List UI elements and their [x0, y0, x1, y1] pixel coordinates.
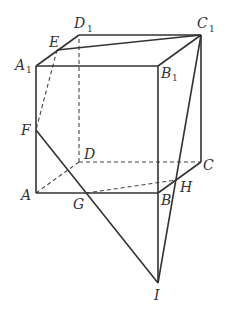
- label-A: A: [19, 187, 31, 203]
- label-E: E: [48, 34, 59, 50]
- label-I: I: [153, 287, 160, 303]
- label-B1-sub: 1: [172, 73, 178, 83]
- cube-diagram: D 1 C 1 E A 1 B 1 F D C A H G B I: [0, 0, 225, 313]
- edge-A-D: [36, 162, 79, 193]
- label-A1-sub: 1: [26, 65, 32, 75]
- label-B: B: [160, 192, 171, 208]
- label-F: F: [20, 122, 32, 138]
- label-C1-sub: 1: [209, 24, 215, 34]
- label-D1-sub: 1: [87, 24, 93, 34]
- label-G: G: [73, 196, 84, 212]
- edge-F-I: [36, 130, 158, 283]
- label-C1: C: [197, 15, 208, 31]
- label-D: D: [83, 146, 95, 162]
- label-A1: A: [13, 57, 25, 73]
- edge-B1-C1: [158, 35, 201, 66]
- label-C: C: [203, 157, 214, 173]
- label-D1: D: [73, 15, 85, 31]
- label-B1: B: [160, 65, 171, 81]
- edge-E-F: [36, 50, 57, 130]
- label-H: H: [179, 179, 193, 195]
